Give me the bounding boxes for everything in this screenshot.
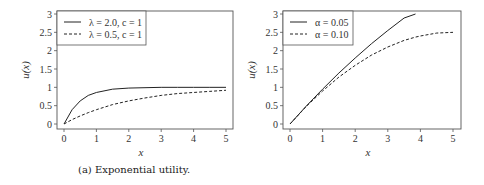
quadratic-utility-chart: 00.511.522.53012345xu(x)α = 0.05α = 0.10: [242, 0, 484, 185]
panel-exponential-utility: 00.511.522.53012345xu(x)λ = 2.0, c = 1λ …: [0, 0, 242, 185]
legend-label: α = 0.05: [315, 17, 348, 28]
panel-quadratic-utility: 00.511.522.53012345xu(x)α = 0.05α = 0.10…: [242, 0, 484, 185]
y-tick-label: 0: [47, 119, 52, 130]
y-tick-label: 0.5: [266, 100, 279, 111]
y-axis-label: u(x): [19, 61, 32, 79]
legend-label: α = 0.10: [315, 29, 348, 40]
y-axis-label: u(x): [245, 61, 258, 79]
y-tick-label: 2.5: [266, 27, 279, 38]
legend: λ = 2.0, c = 1λ = 0.5, c = 1: [57, 11, 146, 45]
x-tick-label: 2: [353, 133, 358, 144]
legend-label: λ = 2.0, c = 1: [89, 17, 142, 28]
x-axis-label: x: [365, 146, 371, 158]
y-tick-label: 3: [47, 9, 52, 20]
x-tick-label: 2: [126, 133, 131, 144]
y-tick-label: 1: [47, 82, 52, 93]
x-tick-label: 3: [159, 133, 164, 144]
x-tick-label: 4: [191, 133, 196, 144]
y-tick-label: 2: [273, 45, 278, 56]
x-tick-label: 0: [62, 133, 67, 144]
y-tick-label: 2: [47, 45, 52, 56]
y-tick-label: 1: [273, 82, 278, 93]
x-tick-label: 0: [288, 133, 293, 144]
x-tick-label: 5: [224, 133, 229, 144]
x-tick-label: 3: [385, 133, 390, 144]
x-tick-label: 4: [418, 133, 423, 144]
y-tick-label: 1.5: [40, 64, 53, 75]
x-tick-label: 1: [94, 133, 99, 144]
legend: α = 0.05α = 0.10: [283, 11, 353, 45]
y-tick-label: 0: [273, 119, 278, 130]
exponential-utility-chart: 00.511.522.53012345xu(x)λ = 2.0, c = 1λ …: [0, 0, 242, 185]
y-tick-label: 3: [273, 9, 278, 20]
x-tick-label: 1: [320, 133, 325, 144]
series-line-1: [290, 32, 453, 124]
y-tick-label: 2.5: [40, 27, 53, 38]
series-line-0: [64, 87, 226, 124]
caption-a: (a) Exponential utility.: [78, 164, 190, 175]
x-tick-label: 5: [451, 133, 456, 144]
y-tick-label: 0.5: [40, 100, 53, 111]
y-tick-label: 1.5: [266, 64, 279, 75]
legend-label: λ = 0.5, c = 1: [89, 29, 142, 40]
x-axis-label: x: [138, 146, 144, 158]
